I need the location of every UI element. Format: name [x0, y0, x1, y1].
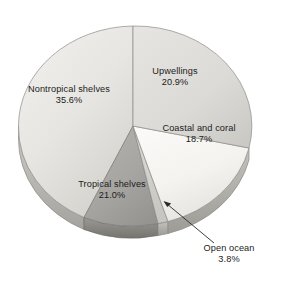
pie-chart-graphic	[0, 0, 281, 281]
pie-chart: Nontropical shelves 35.6% Upwellings 20.…	[0, 0, 281, 281]
pie-slice-upwellings[interactable]	[133, 26, 252, 148]
pie-slices	[18, 26, 251, 226]
